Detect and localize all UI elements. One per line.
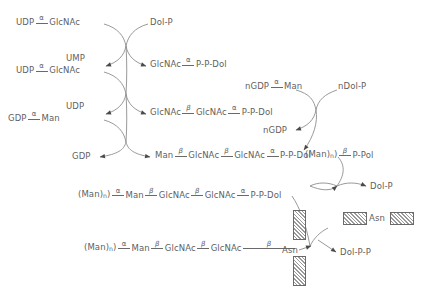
arc-into-asn — [299, 246, 311, 250]
compound-ndol-p: nDol-P — [338, 82, 366, 91]
arc-in-gdpman — [104, 120, 126, 142]
arc-to-row5 — [310, 183, 337, 186]
arc-out-gdp — [100, 142, 126, 157]
compound-man-n-p-pol: (Man)n) β P-Pol — [305, 150, 373, 159]
polypeptide-chain-lower — [293, 256, 306, 286]
bond-beta: β — [339, 155, 351, 156]
arc-out-ump — [106, 46, 126, 66]
compound-gdp-man: GDP α Man — [8, 114, 60, 123]
bond-alpha: α — [182, 65, 194, 66]
arc-out-dolpp — [318, 240, 336, 252]
arc-in-dolp-1 — [126, 24, 148, 46]
arc-link-1-2 — [126, 46, 127, 94]
arc-in-udpglcnac-2 — [104, 72, 126, 94]
arc-link-2-3 — [126, 94, 127, 142]
pathway-diagram: UDP α GlcNAc Dol-P UMP UDP α GlcNAc GlcN… — [0, 0, 423, 288]
arc-in-ndolp — [316, 90, 337, 110]
arc-out-ngdp — [296, 110, 316, 130]
legend-polypeptide-left-icon — [343, 212, 367, 225]
compound-ump: UMP — [66, 54, 85, 63]
bond-alpha: α — [36, 71, 48, 72]
compound-dol-p-right: Dol-P — [370, 182, 393, 191]
arc-out-dolp-right — [337, 183, 366, 186]
compound-dol-p-top: Dol-P — [150, 18, 173, 27]
compound-mature-oligosaccharide: (Man)n) α Man β GlcNAc β GlcNAc β — [84, 243, 297, 252]
arc-asn-branch — [310, 228, 328, 246]
compound-asn: Asn — [282, 246, 298, 255]
bond-alpha: α — [118, 248, 130, 249]
bond-beta: β — [151, 248, 163, 249]
arc-out-chitobiose — [126, 94, 146, 114]
compound-dol-p-p: Dol-P-P — [340, 248, 371, 257]
compound-man-chitobiose-pp-dol: Man β GlcNAc β GlcNAc α P-P-Dol — [155, 151, 311, 160]
compound-glcnac-pp-dol: GlcNAc α P-P-Dol — [150, 60, 227, 69]
compound-ngdp: nGDP — [263, 126, 287, 135]
bond-beta: β — [191, 195, 203, 196]
compound-ngdp-man: nGDP α Man — [245, 82, 302, 91]
compound-gdp: GDP — [72, 152, 91, 161]
bond-alpha: α — [36, 23, 48, 24]
bond-alpha: α — [237, 195, 249, 196]
compound-udp: UDP — [66, 102, 84, 111]
bond-beta: β — [182, 113, 194, 114]
bond-alpha: α — [112, 195, 124, 196]
arc-out-glcnac-ppdol — [126, 46, 146, 66]
compound-udp-glcnac-1: UDP α GlcNAc — [16, 18, 80, 27]
bond-beta: β — [197, 248, 209, 249]
compound-chitobiose-pp-dol: GlcNAc β GlcNAc α P-P-Dol — [150, 108, 273, 117]
arc-out-udp — [106, 94, 126, 114]
bond-alpha: α — [271, 87, 283, 88]
arc-manppol-down — [337, 157, 343, 186]
bond-alpha: α — [267, 156, 279, 157]
bond-alpha: α — [228, 113, 240, 114]
arc-in-udpglcnac-1 — [104, 24, 126, 46]
bond-beta: β — [221, 156, 233, 157]
polypeptide-chain-upper — [293, 210, 306, 240]
bond-alpha: α — [28, 119, 40, 120]
compound-udp-glcnac-2: UDP α GlcNAc — [16, 66, 80, 75]
arc-in-ngdpman — [296, 90, 316, 110]
bond-beta: β — [175, 156, 187, 157]
legend-asn-label: Asn — [369, 214, 385, 223]
arc-out-man-n-ppol — [304, 110, 317, 150]
arc-out-dolp-right-left — [310, 186, 337, 190]
legend-polypeptide-right-icon — [390, 212, 414, 225]
compound-man-n-oligosaccharide-pp-dol: (Man)n) α Man β GlcNAc β GlcNAc α P-P-Do… — [78, 190, 281, 199]
arc-out-man-chain — [126, 142, 150, 157]
bond-beta: β — [145, 195, 157, 196]
